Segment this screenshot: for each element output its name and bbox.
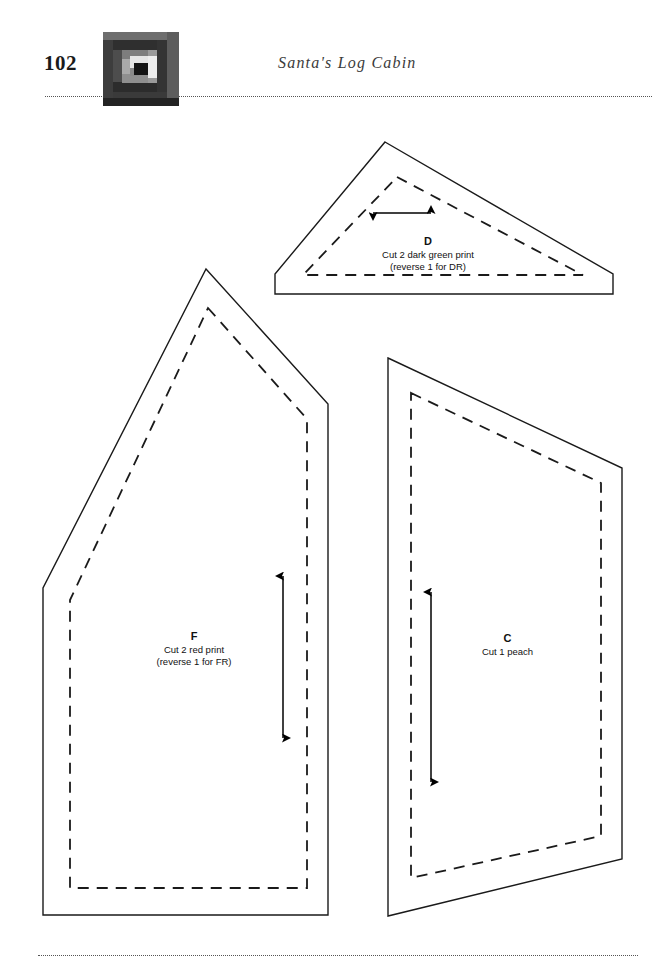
piece-label-d: D Cut 2 dark green print (reverse 1 for … [303, 234, 553, 272]
piece-letter-c: C [425, 631, 590, 645]
page-header: 102 Santa's Log Cabin [0, 0, 670, 112]
footer-divider [38, 955, 638, 957]
piece-f-shape [43, 269, 328, 915]
piece-label-f: F Cut 2 red print (reverse 1 for FR) [84, 629, 304, 667]
piece-cut-line-c-1: Cut 1 peach [425, 646, 590, 658]
piece-cut-line-f-2: (reverse 1 for FR) [84, 656, 304, 668]
pattern-page: 102 Santa's Log Cabin [0, 0, 670, 974]
pattern-pieces-canvas [0, 0, 670, 974]
log-cabin-block-icon [103, 32, 179, 106]
piece-cut-line-d-1: Cut 2 dark green print [303, 249, 553, 261]
piece-cut-line-f-1: Cut 2 red print [84, 644, 304, 656]
chapter-title: Santa's Log Cabin [278, 55, 417, 71]
piece-label-c: C Cut 1 peach [425, 631, 590, 658]
piece-letter-f: F [84, 629, 304, 643]
page-number: 102 [44, 53, 77, 74]
piece-cut-line-d-2: (reverse 1 for DR) [303, 261, 553, 273]
piece-letter-d: D [303, 234, 553, 248]
